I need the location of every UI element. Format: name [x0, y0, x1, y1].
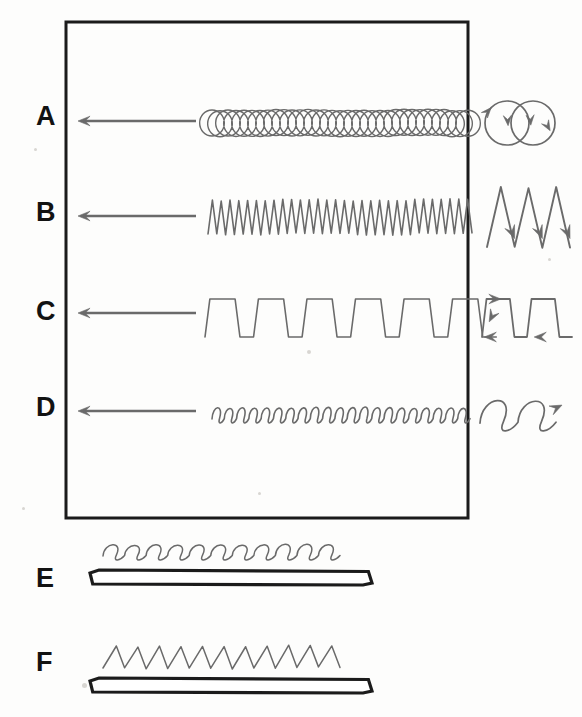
inset-arrowhead-4	[542, 120, 551, 131]
bottom-row-e	[90, 544, 372, 585]
trace-row-b	[78, 187, 570, 248]
row-label-e: E	[36, 565, 54, 592]
bottom-row-f	[90, 645, 372, 693]
trace-e	[103, 544, 340, 560]
trace-rows-group	[78, 101, 572, 431]
inset-arrowhead-2	[489, 309, 499, 322]
trace-row-c	[78, 294, 572, 342]
inset-arrowhead-4	[534, 332, 546, 342]
bottom-rows-group	[90, 544, 372, 693]
row-label-a: A	[36, 103, 56, 130]
trace-b	[208, 199, 472, 235]
row-label-b: B	[36, 199, 56, 226]
inset-a	[481, 101, 555, 145]
trace-row-d	[78, 401, 562, 431]
trace-figure-canvas	[0, 0, 582, 717]
inset-d	[480, 401, 556, 431]
row-label-f: F	[36, 649, 53, 676]
figure-root: ABCDEF	[0, 0, 582, 717]
inset-b	[487, 187, 570, 248]
row-label-c: C	[36, 298, 56, 325]
flat-bar-f	[90, 678, 372, 693]
flat-bar-e	[90, 570, 372, 585]
inset-c	[482, 299, 572, 337]
trace-a	[200, 109, 481, 137]
trace-row-a	[78, 101, 555, 145]
inset-arrowhead-3	[526, 115, 534, 125]
trace-d	[212, 407, 470, 423]
inset-arrowhead-1	[549, 405, 562, 415]
row-label-d: D	[36, 394, 56, 421]
trace-c	[205, 299, 496, 337]
trace-f	[103, 645, 340, 669]
bordered-panel	[66, 22, 468, 518]
